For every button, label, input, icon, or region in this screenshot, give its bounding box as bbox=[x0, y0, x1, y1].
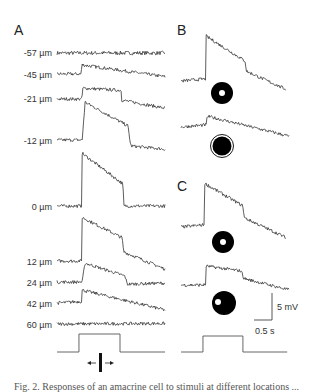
voltage-trace bbox=[57, 152, 165, 207]
stimulus-trace-c bbox=[181, 336, 287, 352]
depth-label: -21 µm bbox=[24, 94, 52, 104]
annulus-icon bbox=[212, 231, 234, 253]
panel-label-a: A bbox=[14, 22, 24, 38]
depth-label: -12 µm bbox=[24, 136, 52, 146]
scale-voltage-label: 5 mV bbox=[277, 302, 298, 312]
voltage-trace bbox=[57, 87, 165, 108]
depth-label: 24 µm bbox=[27, 278, 52, 288]
voltage-trace bbox=[181, 183, 285, 239]
voltage-trace bbox=[57, 64, 165, 77]
scale-bar: 5 mV 0.5 s bbox=[254, 293, 298, 336]
voltage-trace bbox=[181, 265, 289, 290]
voltage-trace bbox=[181, 115, 289, 136]
voltage-trace bbox=[181, 35, 285, 91]
voltage-trace bbox=[57, 51, 165, 55]
voltage-trace bbox=[57, 264, 165, 286]
depth-label: 0 µm bbox=[32, 202, 52, 212]
depth-label: 60 µm bbox=[27, 320, 52, 330]
scale-time-label: 0.5 s bbox=[255, 326, 275, 336]
voltage-trace bbox=[57, 322, 165, 326]
stimulus-trace-a bbox=[57, 334, 165, 352]
voltage-trace bbox=[57, 218, 165, 271]
depth-label: -57 µm bbox=[24, 48, 52, 58]
panel-label-b: B bbox=[177, 22, 186, 38]
voltage-trace bbox=[57, 102, 165, 151]
scale-bar-lines bbox=[254, 293, 272, 320]
panel-c: 5 mV 0.5 s bbox=[181, 183, 298, 352]
ringed-disk-icon bbox=[211, 135, 234, 158]
panel-a: -57 µm -45 µm -21 µm -12 µm 0 µm 12 µm 2… bbox=[24, 48, 165, 372]
annulus-icon bbox=[211, 82, 233, 104]
figure-caption: Fig. 2. Responses of an amacrine cell to… bbox=[14, 381, 299, 392]
panel-b bbox=[181, 35, 289, 158]
moving-bar-icon bbox=[87, 353, 114, 372]
depth-label: 12 µm bbox=[27, 257, 52, 267]
depth-label: -45 µm bbox=[24, 70, 52, 80]
voltage-trace bbox=[57, 289, 165, 310]
panel-label-c: C bbox=[177, 178, 187, 194]
offset-spot-disk-icon bbox=[212, 291, 236, 315]
depth-label: 42 µm bbox=[27, 299, 52, 309]
